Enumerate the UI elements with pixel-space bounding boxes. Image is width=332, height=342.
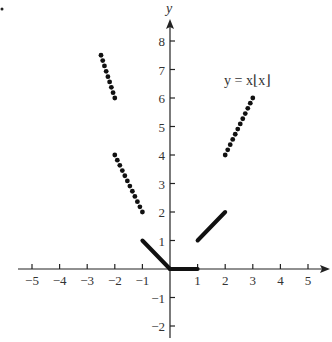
- series-dot: [243, 111, 248, 116]
- x-tick-label: 3: [250, 273, 257, 288]
- x-tick-label: 4: [277, 273, 284, 288]
- series-dot: [106, 74, 111, 79]
- y-tick-label: 3: [159, 177, 166, 192]
- series-segment: [142, 241, 170, 270]
- floor-function-graph: y −5−4−3−2−112345 87654321−1−2 y = x⌊x⌋: [0, 0, 332, 342]
- series-dot: [250, 96, 255, 101]
- series-dot: [240, 116, 245, 121]
- series-dot: [115, 158, 120, 163]
- y-tick-label: 5: [159, 120, 166, 135]
- y-tick-label: 7: [159, 63, 166, 78]
- series-dot: [245, 106, 250, 111]
- x-tick-label: −3: [80, 273, 94, 288]
- y-ticks: 87654321−1−2: [151, 34, 175, 334]
- series-dot: [235, 127, 240, 132]
- series-dot: [112, 96, 117, 101]
- series-dot: [104, 69, 109, 74]
- y-tick-label: 1: [159, 234, 166, 249]
- series-dot: [223, 153, 228, 158]
- equation-label: y = x⌊x⌋: [224, 73, 271, 88]
- series-dot: [117, 163, 122, 168]
- series-dot: [233, 132, 238, 137]
- series-dot: [122, 173, 127, 178]
- axes: [18, 26, 324, 338]
- series-dot: [130, 189, 135, 194]
- series-dot: [109, 85, 114, 90]
- x-tick-label: −4: [53, 273, 67, 288]
- series-dot: [248, 101, 253, 106]
- x-tick-label: 1: [194, 273, 201, 288]
- series-dot: [137, 204, 142, 209]
- series-dot: [140, 210, 145, 215]
- y-axis-label: y: [164, 1, 173, 16]
- series-dot: [238, 122, 243, 127]
- series-dot: [107, 80, 112, 85]
- y-tick-label: 2: [159, 205, 166, 220]
- series-dot: [112, 153, 117, 158]
- series-dot: [125, 179, 130, 184]
- series-dot: [102, 64, 107, 69]
- x-tick-label: 2: [222, 273, 229, 288]
- stray-dot: [1, 8, 4, 11]
- y-tick-label: −1: [151, 291, 165, 306]
- x-tick-label: −5: [25, 273, 39, 288]
- series-dot: [228, 142, 233, 147]
- x-tick-label: −1: [135, 273, 149, 288]
- series-dot: [127, 184, 132, 189]
- series-dot: [135, 199, 140, 204]
- series-segment: [198, 212, 226, 241]
- series-dot: [225, 147, 230, 152]
- x-tick-label: 5: [305, 273, 312, 288]
- y-tick-label: −2: [151, 319, 165, 334]
- y-tick-label: 8: [159, 34, 166, 49]
- series-dot: [99, 53, 104, 58]
- series-dot: [120, 168, 125, 173]
- series-dot: [111, 90, 116, 95]
- y-tick-label: 4: [159, 148, 166, 163]
- y-tick-label: 6: [159, 91, 166, 106]
- x-tick-label: −2: [108, 273, 122, 288]
- series-dot: [100, 58, 105, 63]
- series-dot: [132, 194, 137, 199]
- series-dot: [230, 137, 235, 142]
